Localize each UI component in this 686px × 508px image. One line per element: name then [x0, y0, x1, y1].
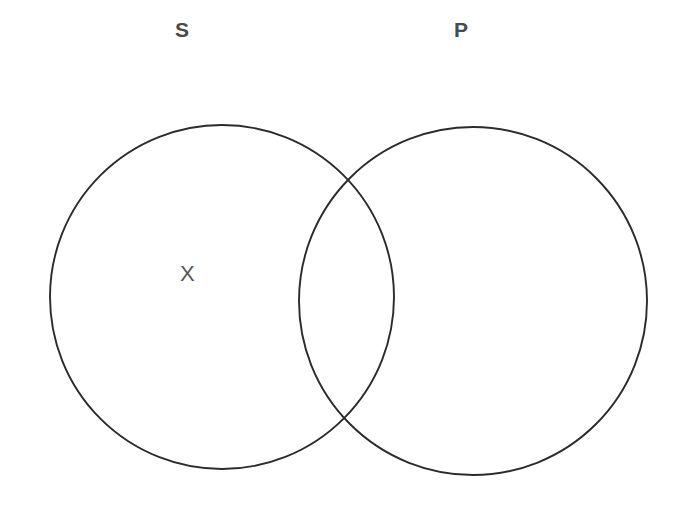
set-label-s: S: [175, 19, 190, 40]
set-label-p: P: [454, 19, 469, 40]
venn-canvas: [0, 0, 686, 508]
venn-diagram: S P X: [0, 0, 686, 508]
region-mark-x-s-only: X: [180, 263, 195, 285]
diagram-background: [0, 0, 686, 508]
